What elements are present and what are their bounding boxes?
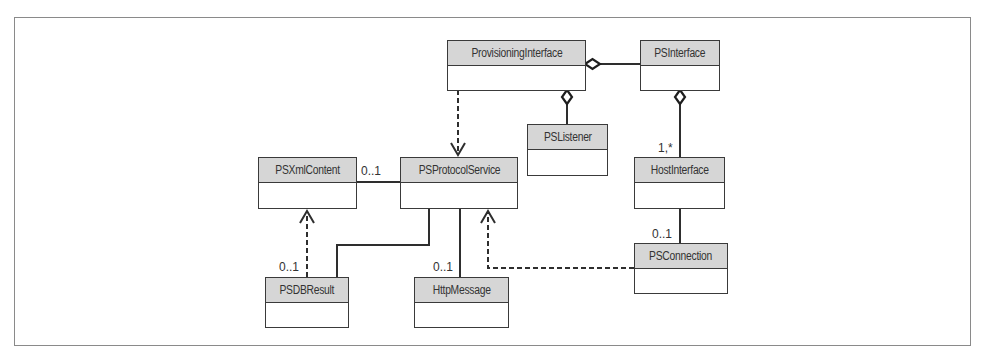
class-name: PSProtocolService [418,163,500,177]
class-name-header: PSInterface [641,41,719,66]
class-http-message[interactable]: HttpMessage [414,277,509,328]
class-name: PSXmlContent [275,163,340,177]
class-provisioning-interface[interactable]: ProvisioningInterface [447,40,586,91]
class-name-header: PSProtocolService [401,158,517,183]
aggregation-psinterface-hostinterface [675,90,685,157]
aggregation-diamond-icon [562,90,572,104]
multiplicity-label-host-interface: 1,* [658,141,673,155]
class-name-header: HostInterface [635,158,724,183]
multiplicity-label-http-message: 0..1 [433,260,453,274]
class-body [259,183,356,206]
multiplicity-label-xml-content: 0..1 [361,164,381,178]
class-name-header: HttpMessage [415,278,508,303]
aggregation-provisioning-pslistener [562,90,572,124]
association-protocolservice-psdbresult [337,208,429,277]
class-body [266,303,348,326]
class-body [528,150,607,173]
class-name-header: PSListener [528,125,607,150]
multiplicity-label-ps-connection: 0..1 [652,227,672,241]
class-name-header: PSConnection [635,244,727,269]
aggregation-provisioning-psinterface [585,59,640,69]
class-name: PSInterface [654,46,705,60]
class-name-header: PSXmlContent [259,158,356,183]
class-name: PSDBResult [280,283,335,297]
class-body [635,269,727,292]
class-psdb-result[interactable]: PSDBResult [265,277,349,328]
class-name: PSListener [544,130,592,144]
class-ps-connection[interactable]: PSConnection [634,243,728,294]
dependency-psconnection-protocolservice [481,211,634,268]
aggregation-diamond-icon [675,90,685,104]
class-name-header: ProvisioningInterface [448,41,585,66]
class-body [401,183,517,206]
class-body [635,183,724,206]
class-name: ProvisioningInterface [471,46,562,60]
class-host-interface[interactable]: HostInterface [634,157,725,209]
class-name: HostInterface [650,163,708,177]
class-ps-listener[interactable]: PSListener [527,124,608,176]
dependency-psdbresult-xmlcontent [300,211,314,277]
class-name: PSConnection [650,249,713,263]
class-ps-interface[interactable]: PSInterface [640,40,720,91]
class-ps-xml-content[interactable]: PSXmlContent [258,157,357,209]
class-name-header: PSDBResult [266,278,348,303]
class-ps-protocol-service[interactable]: PSProtocolService [400,157,518,209]
class-body [641,66,719,89]
class-body [448,66,585,89]
aggregation-diamond-icon [585,59,600,69]
dependency-provisioning-protocolservice [451,90,465,155]
multiplicity-label-psdb-result: 0..1 [279,260,299,274]
class-body [415,303,508,326]
class-name: HttpMessage [433,283,491,297]
